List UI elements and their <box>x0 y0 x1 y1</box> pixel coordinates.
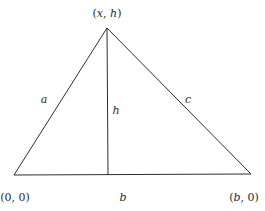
altitude-h-label: h <box>112 104 119 117</box>
altitude-h <box>107 28 108 175</box>
edge-c-right-side <box>107 28 251 174</box>
apex-label: (x, h) <box>93 7 122 20</box>
triangle-diagram: (x, h) (0, 0) (b, 0) a h c b <box>0 0 265 211</box>
edge-b-base <box>14 174 251 175</box>
edge-a-left-side <box>14 28 107 175</box>
origin-label: (0, 0) <box>0 191 30 204</box>
side-a-label: a <box>41 93 48 106</box>
side-c-label: c <box>185 93 191 106</box>
bottom-right-label: (b, 0) <box>229 191 259 204</box>
base-b-label: b <box>119 191 126 204</box>
